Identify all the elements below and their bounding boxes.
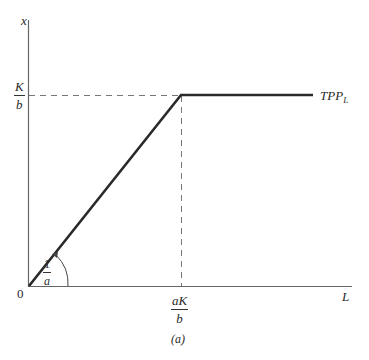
y-tick-kb: K b <box>14 80 25 111</box>
slope-angle-arc <box>56 255 68 286</box>
slope-label: 1 a <box>43 258 51 287</box>
figure-caption: (a) <box>171 333 185 345</box>
tpp-label: TPPL <box>320 89 348 105</box>
y-axis-label: x <box>21 14 27 27</box>
x-axis-label: L <box>342 290 349 303</box>
origin-label: 0 <box>17 287 24 300</box>
tpp-curve <box>29 95 313 286</box>
x-tick-akb: aK b <box>171 294 188 325</box>
